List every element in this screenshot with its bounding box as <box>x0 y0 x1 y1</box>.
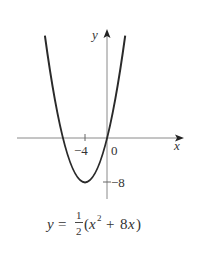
equation-exponent: 2 <box>97 213 102 223</box>
fraction-denominator: 2 <box>76 225 82 237</box>
equation-close-paren: ) <box>136 216 141 233</box>
y-tick-label-minus-8: −8 <box>111 175 125 190</box>
equation-caption: y = 1 2 ( x 2 + 8 x ) <box>45 209 141 237</box>
equation-x-term: x <box>88 216 96 232</box>
parabola-chart: x y −4 0 −8 y = 1 2 ( x 2 + 8 x ) <box>0 0 209 254</box>
equation-lhs: y <box>45 216 54 232</box>
equation-equals: = <box>58 216 66 232</box>
y-axis-label: y <box>90 27 98 42</box>
equation-linear-coef: 8 <box>120 216 128 232</box>
fraction-numerator: 1 <box>76 209 82 221</box>
equation-linear-var: x <box>127 216 135 232</box>
equation-plus: + <box>106 216 114 232</box>
x-tick-label-minus-4: −4 <box>74 143 88 158</box>
parabola-curve <box>45 36 125 183</box>
origin-label: 0 <box>111 143 118 158</box>
x-axis-label: x <box>173 138 180 153</box>
